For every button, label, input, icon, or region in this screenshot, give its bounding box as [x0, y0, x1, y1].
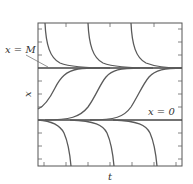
curves-below-0 [38, 120, 157, 166]
label-x-equals-zero: x = 0 [148, 106, 175, 117]
curves-above-M [45, 23, 182, 68]
left-ticks [38, 29, 42, 159]
diagram-canvas: x = M x = 0 t x [0, 0, 193, 184]
logistic-solution-diagram: x = M x = 0 t x [0, 0, 193, 184]
label-leader-line [26, 55, 48, 67]
y-axis-label: x [22, 91, 33, 97]
label-x-equals-M: x = M [5, 44, 36, 55]
x-axis-label: t [108, 171, 113, 182]
right-ticks [178, 29, 182, 159]
top-ticks [66, 23, 154, 27]
plot-frame [38, 23, 182, 166]
